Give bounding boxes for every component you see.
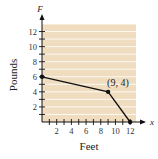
y-axis-title: Pounds: [7, 59, 19, 91]
y-tick-label: 4: [33, 87, 38, 97]
x-tick-label: 8: [99, 126, 103, 136]
y-tick-label: 2: [33, 102, 37, 112]
line-chart: 2468101224681012 FeetPoundsFx(9, 4): [0, 0, 158, 159]
x-tick-label: 2: [55, 126, 59, 136]
data-point: [106, 90, 110, 94]
y-axis-variable: F: [36, 4, 43, 14]
y-tick-label: 8: [33, 57, 37, 67]
y-tick-label: 12: [29, 27, 38, 37]
data-point: [40, 75, 44, 79]
x-axis-title: Feet: [80, 140, 99, 152]
x-tick-label: 4: [69, 126, 74, 136]
point-annotation: (9, 4): [107, 77, 129, 89]
x-axis-variable: x: [149, 117, 154, 127]
x-tick-label: 12: [126, 126, 135, 136]
y-tick-label: 6: [33, 72, 37, 82]
y-axis-arrow-icon: [40, 14, 45, 20]
y-tick-label: 10: [29, 42, 38, 52]
data-point: [128, 120, 132, 124]
x-tick-label: 6: [84, 126, 88, 136]
x-tick-label: 10: [111, 126, 120, 136]
x-axis-arrow-icon: [140, 120, 146, 125]
